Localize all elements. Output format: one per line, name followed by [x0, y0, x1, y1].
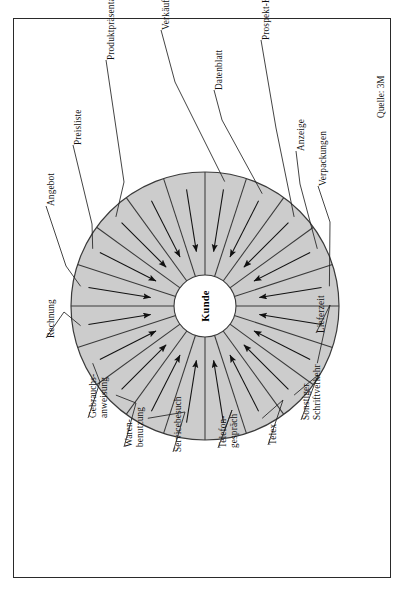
- segment-label-line: Datenblatt: [214, 50, 224, 90]
- segment-label-9: Telefon-gespräch: [218, 414, 239, 448]
- source-credit: Quelle: 3M: [376, 75, 386, 118]
- segment-label-line: Verkäuferkontakt: [161, 0, 171, 30]
- segment-label-10: Servicebesuch: [173, 396, 184, 452]
- segment-label-line: Preisliste: [73, 109, 83, 145]
- leader-line: [106, 60, 124, 217]
- segment-label-line: Anzeige: [296, 119, 306, 151]
- segment-label-14: Angebot: [46, 173, 57, 206]
- segment-label-8: Telex: [268, 424, 279, 445]
- segment-label-11: Waren-benutzung: [124, 407, 145, 447]
- segment-label-5: Verpackungen: [318, 131, 329, 186]
- segment-label-line: Produktpräsentation: [106, 0, 116, 60]
- segment-label-line: Sonstiger: [301, 384, 311, 420]
- segment-label-line: anweisung: [99, 374, 110, 418]
- segment-label-1: Verkäuferkontakt: [161, 0, 172, 30]
- segment-label-line: Telefon-: [218, 415, 228, 448]
- segment-label-7: SonstigerSchriftverkehr: [301, 364, 322, 420]
- leader-line: [73, 145, 93, 249]
- segment-label-line: gespräch: [229, 414, 240, 448]
- segment-label-line: Prospekt-Katalog: [261, 0, 271, 40]
- page-canvas: Kunde Quelle: 3M VerkäuferkontaktDatenbl…: [0, 0, 405, 597]
- segment-label-line: Schriftverkehr: [312, 364, 323, 420]
- segment-label-line: Rechnung: [46, 299, 56, 338]
- segment-label-line: Servicebesuch: [173, 396, 183, 452]
- segment-label-4: Anzeige: [296, 119, 307, 151]
- segment-label-2: Datenblatt: [214, 50, 225, 90]
- segment-label-line: Lieferzeit: [316, 295, 326, 333]
- segment-label-6: Lieferzeit: [316, 295, 327, 333]
- segment-label-3: Prospekt-Katalog: [261, 0, 272, 40]
- segment-label-12: Gebrauchs-anweisung: [88, 374, 109, 418]
- segment-label-line: benutzung: [135, 407, 146, 447]
- segment-label-13: Rechnung: [46, 299, 57, 338]
- segment-label-16: Produktpräsentation: [106, 0, 117, 60]
- segment-label-line: Verpackungen: [318, 131, 328, 186]
- segment-label-line: Angebot: [46, 173, 56, 206]
- segment-label-line: Gebrauchs-: [88, 374, 98, 418]
- segment-label-line: Waren-: [124, 419, 134, 447]
- center-label: Kunde: [200, 290, 211, 322]
- segment-label-15: Preisliste: [73, 109, 84, 145]
- segment-label-line: Telex: [268, 424, 278, 445]
